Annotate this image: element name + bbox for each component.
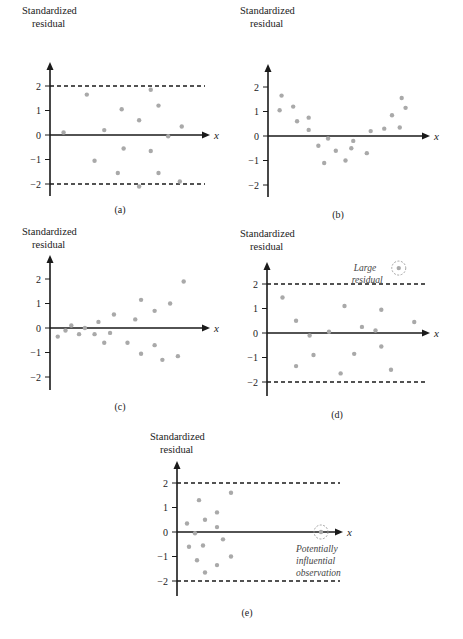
data-point	[382, 126, 386, 130]
data-point	[215, 525, 219, 529]
y-tick-label: −2	[248, 180, 259, 191]
residual-plots-figure: Standardizedresidualx210−1−2(a)Standardi…	[0, 0, 463, 639]
data-point	[215, 563, 219, 567]
data-point	[351, 139, 355, 143]
data-point	[412, 320, 416, 324]
data-point	[349, 146, 353, 150]
data-point	[137, 118, 141, 122]
data-point	[306, 115, 310, 119]
y-tick-label: 1	[253, 303, 258, 314]
data-point	[133, 317, 137, 321]
y-tick-label: 0	[36, 130, 41, 141]
y-tick-label: 1	[36, 105, 41, 116]
y-tick-label: −2	[247, 377, 258, 388]
data-point	[277, 108, 281, 112]
y-tick-label: 0	[254, 131, 259, 142]
panel-caption: (e)	[241, 607, 252, 619]
data-point	[373, 328, 377, 332]
data-point	[342, 304, 346, 308]
x-axis-label: x	[213, 322, 219, 334]
y-axis-arrow-icon	[174, 461, 181, 469]
data-point	[360, 325, 364, 329]
data-point	[316, 144, 320, 148]
panel-caption: (a)	[114, 204, 125, 216]
data-point	[352, 352, 356, 356]
y-tick-label: 1	[254, 106, 259, 117]
data-point	[139, 298, 143, 302]
x-axis-arrow-icon	[202, 325, 210, 332]
y-axis-label: Standardized	[240, 228, 296, 239]
data-point	[280, 295, 284, 299]
data-point	[96, 320, 100, 324]
data-point	[85, 92, 89, 96]
data-point	[178, 179, 182, 183]
data-point	[327, 330, 331, 334]
y-tick-label: 2	[163, 478, 168, 489]
y-axis-label: residual	[160, 444, 193, 455]
y-axis-label: residual	[250, 241, 283, 252]
data-point	[307, 333, 311, 337]
data-point	[368, 129, 372, 133]
y-axis-arrow-icon	[47, 255, 54, 263]
data-point	[295, 119, 299, 123]
data-point	[61, 130, 65, 134]
y-axis-label: Standardized	[22, 226, 78, 237]
annotation-influential: Potentially	[295, 544, 338, 554]
data-point	[215, 510, 219, 514]
data-point	[334, 149, 338, 153]
y-tick-label: −2	[30, 179, 41, 190]
data-point	[195, 558, 199, 562]
panel-c: Standardizedresidualx210−1−2(c)	[22, 226, 219, 413]
data-point	[229, 554, 233, 558]
data-point	[221, 537, 225, 541]
data-point	[69, 323, 73, 327]
y-tick-label: 2	[36, 81, 41, 92]
data-point	[63, 328, 67, 332]
panel-a: Standardizedresidualx210−1−2(a)	[22, 5, 219, 216]
data-point	[180, 124, 184, 128]
data-point	[121, 146, 125, 150]
data-point	[102, 341, 106, 345]
data-point	[108, 331, 112, 335]
data-point	[389, 368, 393, 372]
y-axis-label: residual	[32, 18, 65, 29]
y-tick-label: −1	[30, 347, 41, 358]
data-point	[166, 134, 170, 138]
data-point	[168, 301, 172, 305]
data-point	[83, 326, 87, 330]
y-tick-label: −2	[30, 372, 41, 383]
data-point	[193, 531, 197, 535]
y-tick-label: 1	[163, 502, 168, 513]
panel-caption: (b)	[332, 209, 344, 221]
y-tick-label: −2	[157, 576, 168, 587]
panel-b: Standardizedresidualx210−1−2(b)	[240, 5, 439, 221]
panel-caption: (d)	[331, 409, 343, 421]
y-tick-label: −1	[248, 155, 259, 166]
y-tick-label: −1	[247, 352, 258, 363]
data-point	[229, 491, 233, 495]
data-point	[338, 371, 342, 375]
data-point	[379, 344, 383, 348]
x-axis-label: x	[346, 526, 352, 538]
y-tick-label: 0	[163, 527, 168, 538]
data-point	[185, 521, 189, 525]
data-point	[152, 309, 156, 313]
data-point	[399, 96, 403, 100]
y-axis-arrow-icon	[264, 262, 271, 270]
y-tick-label: 0	[36, 323, 41, 334]
x-axis-label: x	[433, 327, 439, 339]
annotation-influential: influential	[296, 556, 335, 566]
data-point	[294, 319, 298, 323]
data-point	[149, 149, 153, 153]
data-point	[119, 107, 123, 111]
y-tick-label: 0	[253, 328, 258, 339]
y-axis-label: Standardized	[22, 5, 78, 16]
panel-d: Standardizedresidualx210−1−2Largeresidua…	[240, 228, 439, 421]
data-point	[201, 543, 205, 547]
data-point	[203, 570, 207, 574]
data-point	[397, 266, 401, 270]
panel-e: Standardizedresidualx210−1−2Potentiallyi…	[150, 431, 352, 619]
data-point	[403, 106, 407, 110]
y-tick-label: 1	[36, 298, 41, 309]
data-point	[319, 530, 323, 534]
